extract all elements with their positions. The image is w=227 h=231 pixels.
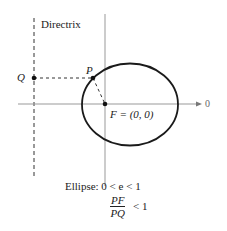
- pf-segment: [93, 78, 105, 104]
- directrix-label: Directrix: [41, 18, 81, 30]
- point-q-label: Q: [17, 71, 25, 83]
- focus-label: F = (0, 0): [110, 108, 153, 120]
- fraction-relation: < 1: [133, 200, 147, 212]
- fraction-numerator: PF: [110, 194, 125, 207]
- fraction-denominator: PQ: [110, 207, 125, 219]
- ellipse-directrix-diagram: Directrix Q P F = (0, 0) 0 Ellipse: 0 < …: [0, 0, 227, 231]
- axis-end-label: 0: [205, 98, 210, 109]
- point-p-dot: [91, 76, 96, 81]
- ratio-fraction: PF PQ: [110, 194, 125, 219]
- point-q-dot: [32, 76, 37, 81]
- point-p-label: P: [86, 64, 93, 76]
- caption-line: Ellipse: 0 < e < 1: [65, 180, 141, 192]
- focus-dot: [103, 102, 108, 107]
- axis-arrow-icon: [196, 102, 202, 107]
